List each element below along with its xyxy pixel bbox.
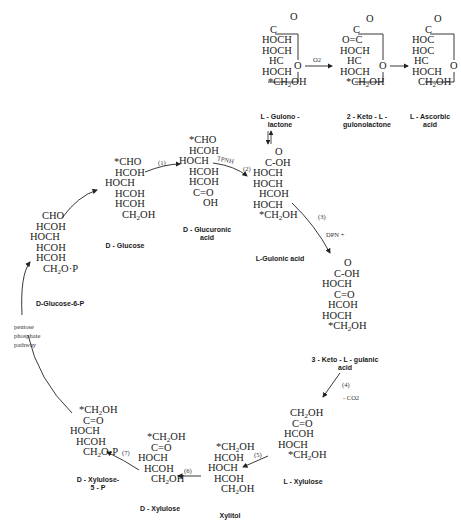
label-step-3: (3)	[318, 213, 326, 220]
ring-oxygen: O	[379, 61, 387, 72]
molecule-2-keto-l-gulonolactone: O C O=C HOCH HC HOCH *CH2OH	[340, 14, 379, 88]
label-3-keto-l-gulonic-acid: 3 - Keto - L - gulanic acid	[305, 356, 385, 372]
label-step-4: (4)	[342, 381, 350, 388]
label-l-ascorbic-acid: L - Ascorbic acid	[405, 113, 455, 129]
label-o2: O2	[313, 56, 321, 63]
ring-oxygen: O	[294, 61, 302, 72]
molecule-d-xylulose: *CH2OH C=O HOCH HCOH CH2OH	[138, 432, 177, 485]
molecule-d-glucuronic-acid: *CHO HCOH HOCH HCOH HCOH C=O OH	[179, 135, 209, 209]
label-d-xylulose: D - Xylulose	[135, 505, 185, 513]
label-step-2: (2)	[243, 165, 251, 172]
label-pentose-phosphate-pathway: pentose phosphate pathway	[14, 322, 40, 349]
label-step-1: (1)	[158, 159, 166, 166]
molecule-l-gulonic-acid: O C-OH HOCH HOCH HCOH HOCH *CH2OH	[253, 147, 292, 221]
molecule-3-keto-l-gulonic-acid: O C-OH HOCH C=O HCOH HOCH *CH2OH	[322, 258, 361, 332]
label-phosphate: phosphate	[14, 331, 40, 340]
label-step-6: (6)	[184, 467, 192, 474]
molecule-l-gulonolactone: O C HOCH HOCH HC HOCH *CH2OH	[262, 14, 301, 88]
label-2-keto-l-gulonolactone: 2 - Keto - L - gulonolactone	[332, 113, 402, 129]
label-d-glucose: D - Glucose	[100, 242, 150, 250]
label-l-gulonolactone: L - Gulono - lactone	[250, 113, 310, 129]
molecule-xylitol: *CH2OH HCOH HOCH HCOH CH2OH	[208, 442, 247, 495]
molecule-d-glucose: *CHO HCOH HOCH HCOH HCOH CH2OH	[105, 157, 138, 220]
molecule-d-xylulose-5-p: *CH2OH C=O HOCH HCOH CH2O·P	[70, 405, 109, 458]
label-pentose: pentose	[14, 322, 40, 331]
label-d-xylulose-5-p: D - Xylulose- 5 - P	[68, 476, 128, 492]
label-l-xylulose: L - Xylulose	[278, 478, 328, 486]
label-co2: - CO2	[343, 394, 359, 401]
label-d-glucuronic-acid: D - Glucuronic acid	[172, 226, 242, 242]
ring-oxygen: O	[450, 61, 458, 72]
molecule-d-glucose-6-p: CHO HCOH HOCH HCOH HCOH CH2O·P	[30, 211, 65, 274]
label-d-glucose-6-p: D-Glucose-6-P	[30, 300, 90, 308]
molecule-l-xylulose: CH2OH C=O HCOH HOCH *CH2OH	[278, 408, 317, 461]
label-l-gulonic-acid: L-Gulonic acid	[250, 255, 310, 263]
label-step-5: (5)	[254, 451, 262, 458]
label-pathway: pathway	[14, 340, 40, 349]
label-dpn: DPN +	[326, 231, 344, 238]
label-step-7: (7)	[122, 449, 130, 456]
molecule-l-ascorbic-acid: O C HOC HOC HC HOCH CH2OH	[412, 14, 445, 88]
label-xylitol: Xylitol	[210, 512, 250, 520]
